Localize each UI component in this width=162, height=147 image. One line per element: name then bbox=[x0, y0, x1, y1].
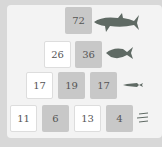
cell-r3-c0[interactable]: 11 bbox=[10, 105, 37, 132]
cell-r3-c2[interactable]: 13 bbox=[74, 105, 101, 132]
tiny-fish-icon bbox=[136, 112, 150, 124]
cell-r1-c1: 36 bbox=[75, 41, 102, 68]
fish-icon bbox=[105, 46, 135, 60]
small-fish-icon bbox=[123, 82, 143, 88]
cell-r2-c0[interactable]: 17 bbox=[26, 72, 53, 99]
cell-r2-c1: 19 bbox=[58, 72, 85, 99]
cell-r3-c1: 6 bbox=[42, 105, 69, 132]
cell-r3-c3: 4 bbox=[106, 105, 133, 132]
cell-r1-c0[interactable]: 26 bbox=[44, 41, 71, 68]
cell-r2-c2: 17 bbox=[90, 72, 117, 99]
shark-icon bbox=[92, 12, 140, 34]
cell-r0-c0: 72 bbox=[65, 7, 92, 34]
